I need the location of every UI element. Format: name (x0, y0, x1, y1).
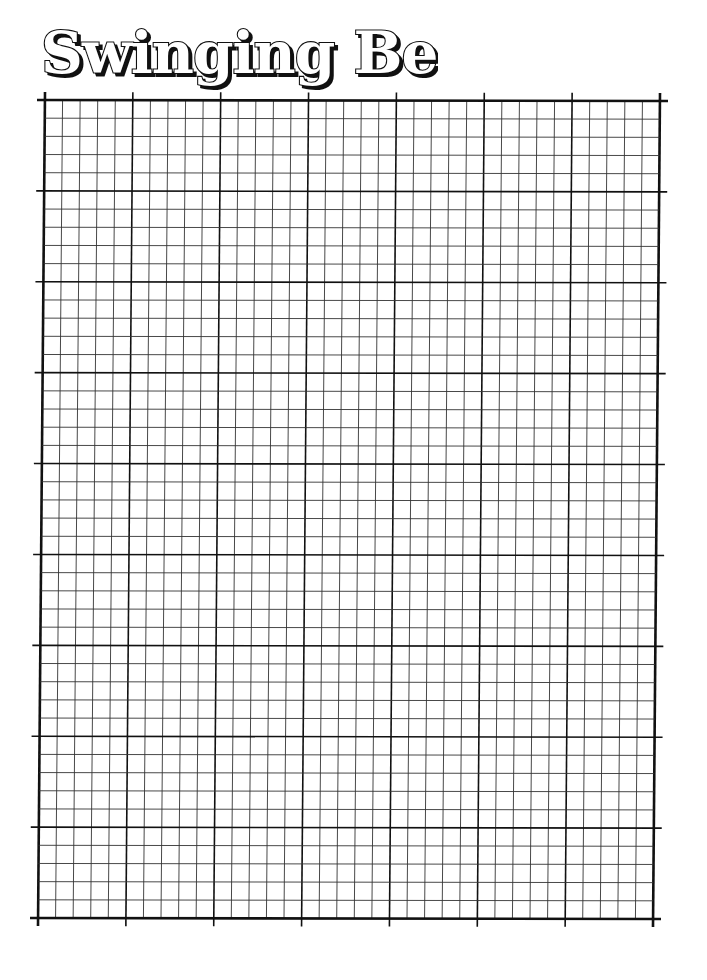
major-vertical-line (126, 92, 133, 926)
minor-vertical-line (73, 100, 80, 918)
minor-vertical-line (460, 101, 467, 919)
minor-horizontal-line (43, 354, 658, 355)
major-horizontal-line (31, 827, 662, 828)
minor-horizontal-line (45, 118, 660, 119)
minor-horizontal-line (44, 245, 659, 246)
minor-horizontal-line (42, 445, 657, 446)
minor-horizontal-line (45, 155, 660, 156)
minor-horizontal-line (40, 718, 655, 719)
minor-vertical-line (284, 100, 291, 918)
minor-vertical-line (495, 101, 502, 919)
minor-horizontal-line (40, 700, 655, 701)
minor-vertical-line (196, 100, 203, 918)
minor-vertical-line (618, 101, 625, 919)
minor-vertical-line (530, 101, 537, 919)
major-horizontal-line (37, 100, 668, 101)
minor-horizontal-line (41, 518, 656, 519)
major-horizontal-line (35, 282, 666, 283)
minor-horizontal-line (44, 173, 659, 174)
minor-vertical-line (425, 101, 432, 919)
minor-horizontal-line (41, 591, 656, 592)
minor-horizontal-line (43, 336, 658, 337)
minor-vertical-line (635, 101, 642, 919)
minor-horizontal-line (40, 664, 655, 665)
minor-vertical-line (56, 100, 63, 918)
minor-vertical-line (337, 100, 344, 918)
major-vertical-line (302, 92, 309, 926)
minor-vertical-line (231, 100, 238, 918)
minor-horizontal-line (39, 809, 654, 810)
minor-vertical-line (442, 101, 449, 919)
minor-horizontal-line (38, 900, 653, 901)
minor-vertical-line (548, 101, 555, 919)
minor-vertical-line (372, 101, 379, 919)
major-horizontal-line (36, 191, 667, 192)
minor-horizontal-line (39, 845, 654, 846)
major-horizontal-line (32, 736, 663, 737)
minor-horizontal-line (45, 136, 660, 137)
minor-horizontal-line (42, 427, 657, 428)
major-vertical-line (653, 93, 660, 927)
minor-horizontal-line (44, 227, 659, 228)
minor-horizontal-line (41, 536, 656, 537)
major-horizontal-line (35, 373, 666, 374)
major-horizontal-line (30, 918, 661, 919)
major-horizontal-line (34, 464, 665, 465)
minor-vertical-line (600, 101, 607, 919)
minor-horizontal-line (39, 773, 654, 774)
minor-vertical-line (108, 100, 115, 918)
minor-horizontal-line (39, 791, 654, 792)
minor-horizontal-line (38, 863, 653, 864)
minor-vertical-line (143, 100, 150, 918)
minor-horizontal-line (39, 754, 654, 755)
minor-horizontal-line (40, 682, 655, 683)
major-vertical-line (565, 93, 572, 927)
minor-vertical-line (319, 100, 326, 918)
minor-vertical-line (266, 100, 273, 918)
major-horizontal-line (32, 645, 663, 646)
minor-vertical-line (512, 101, 519, 919)
major-vertical-line (214, 92, 221, 926)
minor-vertical-line (249, 100, 256, 918)
minor-horizontal-line (38, 882, 653, 883)
graph-paper-grid (0, 0, 707, 980)
minor-vertical-line (91, 100, 98, 918)
major-vertical-line (389, 93, 396, 927)
minor-vertical-line (407, 101, 414, 919)
minor-horizontal-line (40, 627, 655, 628)
minor-horizontal-line (41, 573, 656, 574)
minor-vertical-line (583, 101, 590, 919)
minor-horizontal-line (42, 409, 657, 410)
minor-vertical-line (179, 100, 186, 918)
minor-horizontal-line (44, 264, 659, 265)
minor-horizontal-line (43, 300, 658, 301)
major-horizontal-line (33, 554, 664, 555)
minor-horizontal-line (42, 482, 657, 483)
minor-horizontal-line (41, 609, 656, 610)
minor-horizontal-line (44, 209, 659, 210)
minor-horizontal-line (43, 318, 658, 319)
major-vertical-line (477, 93, 484, 927)
minor-vertical-line (354, 101, 361, 919)
minor-horizontal-line (42, 500, 657, 501)
major-vertical-line (38, 92, 45, 926)
minor-horizontal-line (43, 391, 658, 392)
minor-vertical-line (161, 100, 168, 918)
